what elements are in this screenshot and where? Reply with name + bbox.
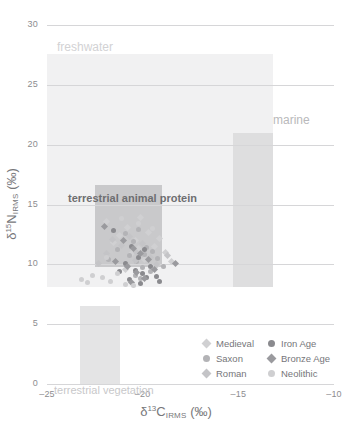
data-point: [150, 226, 155, 231]
legend-label: Iron Age: [281, 338, 316, 349]
x-axis-units: (‰): [190, 404, 212, 419]
y-axis-mass-number: 15: [4, 224, 13, 233]
region-terrestrial-vegetation: [80, 306, 120, 384]
legend-column-left: MedievalSaxonRoman: [203, 336, 254, 381]
legend-item-medieval[interactable]: Medieval: [203, 336, 254, 351]
legend-item-neolithic[interactable]: Neolithic: [268, 366, 330, 381]
gridline-y-20: [47, 145, 334, 146]
legend-item-iron-age[interactable]: Iron Age: [268, 336, 330, 351]
gridline-y-30: [47, 25, 334, 26]
data-point: [154, 274, 159, 279]
y-tick-label-0: 0: [12, 378, 38, 388]
data-point: [108, 279, 113, 284]
legend-label: Bronze Age: [281, 353, 330, 364]
region-label-freshwater: freshwater: [57, 40, 113, 54]
x-tick-label-3: –10: [314, 389, 352, 399]
y-axis-method: IRMS: [11, 193, 20, 214]
legend-swatch-diamond-icon: [202, 369, 212, 379]
legend-swatch-diamond-icon: [267, 354, 277, 364]
chart-figure: 051015202530 –25–20–15–10 freshwatermari…: [0, 0, 352, 444]
x-axis-mass-number: 13: [147, 404, 156, 413]
y-tick-label-25: 25: [12, 79, 38, 89]
legend-item-saxon[interactable]: Saxon: [203, 351, 254, 366]
legend: MedievalSaxonRoman Iron AgeBronze AgeNeo…: [203, 336, 343, 384]
x-tick-label-2: –15: [218, 389, 258, 399]
legend-swatch-circle-icon: [268, 340, 275, 347]
y-axis-title: δ15NIRMS (‰): [4, 134, 20, 274]
gridline-y-25: [47, 85, 334, 86]
legend-item-bronze-age[interactable]: Bronze Age: [268, 351, 330, 366]
y-tick-label-5: 5: [12, 318, 38, 328]
legend-label: Neolithic: [281, 368, 317, 379]
legend-label: Roman: [216, 368, 247, 379]
x-axis-method: IRMS: [166, 411, 187, 420]
gridline-y-15: [47, 205, 334, 206]
x-axis-title: δ13CIRMS (‰): [0, 404, 352, 420]
y-axis-units: (‰): [4, 168, 19, 190]
legend-column-right: Iron AgeBronze AgeNeolithic: [268, 336, 330, 381]
legend-swatch-diamond-icon: [202, 339, 212, 349]
legend-label: Saxon: [216, 353, 243, 364]
y-tick-label-30: 30: [12, 19, 38, 29]
y-axis-delta: δ: [4, 233, 19, 240]
legend-item-roman[interactable]: Roman: [203, 366, 254, 381]
gridline-y-5: [47, 324, 334, 325]
legend-swatch-circle-icon: [268, 370, 275, 377]
data-point: [85, 280, 90, 285]
legend-label: Medieval: [216, 338, 254, 349]
gridline-y-10: [47, 264, 334, 265]
data-point: [100, 275, 105, 280]
y-axis-element: N: [4, 214, 19, 223]
region-label-terrestrial-animal-protein: terrestrial animal protein: [68, 192, 197, 204]
region-label-terrestrial-vegetation: terrestrial vegetation: [54, 384, 154, 396]
data-point: [150, 249, 155, 254]
data-point: [104, 255, 109, 260]
region-label-marine: marine: [273, 113, 310, 127]
x-axis-element: C: [156, 404, 165, 419]
legend-swatch-circle-icon: [203, 355, 210, 362]
